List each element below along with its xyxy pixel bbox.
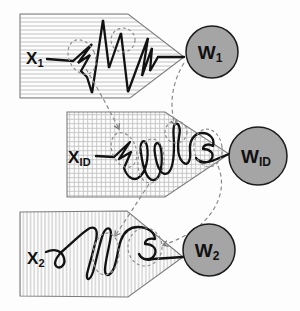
source-block-xid: XID (67, 112, 229, 197)
figure-canvas: X1 XID X2 W1 WID W2 (0, 0, 300, 311)
correspondence-arrow-w1-to-xid (172, 63, 184, 125)
writer-node-wid: WID (229, 127, 287, 185)
writer-node-w1: W1 (186, 26, 238, 78)
source-block-x1: X1 (20, 14, 184, 98)
writer-node-w2: W2 (183, 224, 235, 276)
source-block-x2: X2 (20, 211, 183, 297)
diagram-svg: X1 XID X2 W1 WID W2 (0, 0, 300, 311)
pentagon-x2 (20, 211, 183, 297)
